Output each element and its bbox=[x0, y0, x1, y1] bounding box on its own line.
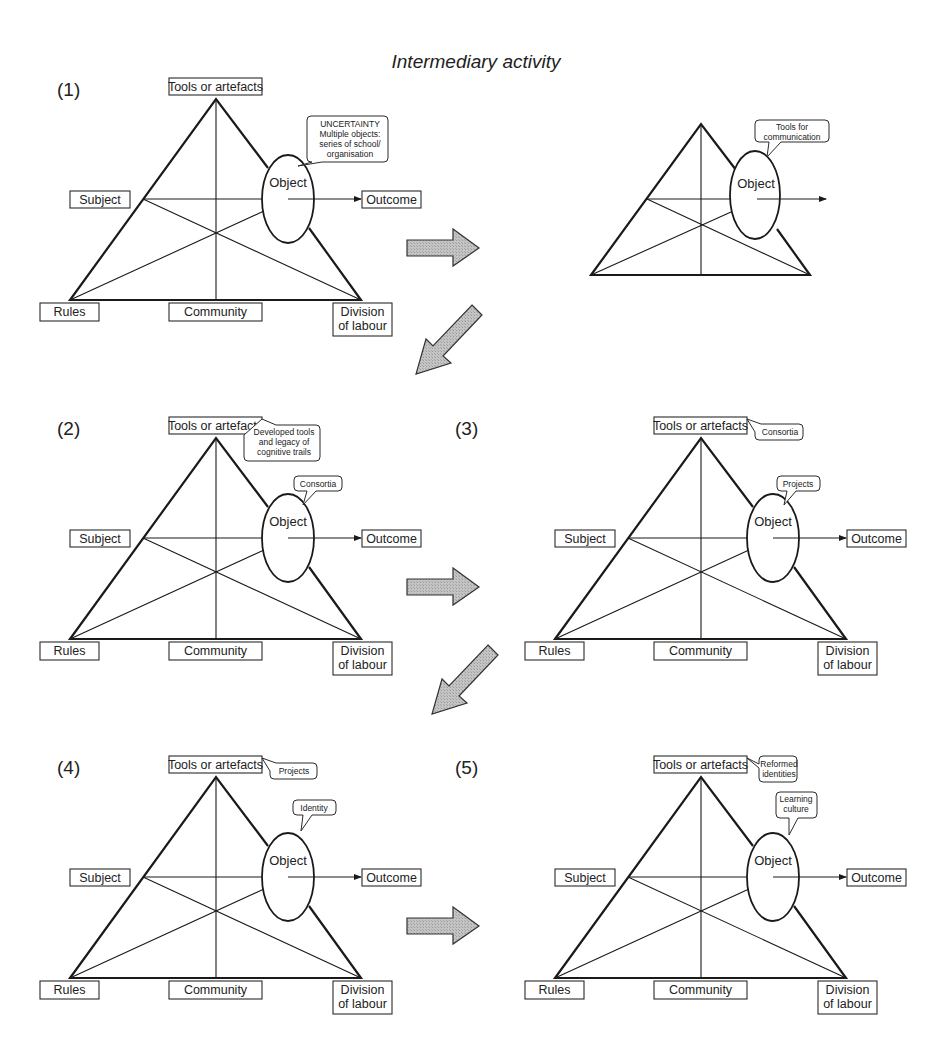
transition-arrow-down-left bbox=[432, 645, 498, 714]
bubble-line: Consortia bbox=[300, 479, 337, 489]
object-label: Object bbox=[754, 853, 792, 868]
object-ellipse bbox=[730, 151, 780, 239]
subject-division-line bbox=[647, 199, 810, 275]
community-label: Community bbox=[669, 983, 733, 997]
division-label-line1: Division bbox=[341, 305, 385, 319]
bubble-line: culture bbox=[783, 804, 809, 814]
subject-label: Subject bbox=[564, 871, 606, 885]
rules-label: Rules bbox=[54, 983, 86, 997]
bubble-line: Identity bbox=[300, 803, 328, 813]
panel-number: (2) bbox=[57, 418, 80, 439]
rules-object-line bbox=[555, 889, 749, 978]
division-label-line2: of labour bbox=[823, 658, 872, 672]
panel-number: (4) bbox=[57, 757, 80, 778]
subject-division-line bbox=[143, 538, 361, 639]
bubble-line: Multiple objects: bbox=[320, 129, 381, 139]
division-label-line2: of labour bbox=[338, 658, 387, 672]
bubble-line: Developed tools bbox=[254, 427, 315, 437]
outcome-label: Outcome bbox=[851, 871, 902, 885]
outcome-label: Outcome bbox=[366, 532, 417, 546]
bubble-line: UNCERTAINTY bbox=[320, 119, 380, 129]
rules-object-line bbox=[70, 550, 264, 639]
bubble-line: organisation bbox=[327, 149, 374, 159]
bubble-line: Tools for bbox=[776, 122, 808, 132]
outcome-label: Outcome bbox=[366, 871, 417, 885]
bubble-line: Projects bbox=[279, 766, 310, 776]
panel-number: (5) bbox=[455, 757, 478, 778]
rules-label: Rules bbox=[539, 644, 571, 658]
activity-system-diagram: Intermediary activity (1) Object Tools o… bbox=[0, 0, 952, 1053]
subject-division-line bbox=[628, 538, 846, 639]
community-label: Community bbox=[184, 305, 248, 319]
panel-5: (5) Object Tools or artefacts Subject Ou… bbox=[455, 756, 906, 1014]
panel-4: (4) Object Tools or artefacts Subject Ou… bbox=[40, 756, 421, 1014]
rules-label: Rules bbox=[539, 983, 571, 997]
tools-label: Tools or artefacts bbox=[168, 80, 263, 94]
panel-1: (1) Object Tools or artefacts Subject Ou… bbox=[40, 78, 421, 336]
outcome-label: Outcome bbox=[851, 532, 902, 546]
division-label-line2: of labour bbox=[338, 997, 387, 1011]
object-label: Object bbox=[269, 514, 307, 529]
subject-label: Subject bbox=[79, 193, 121, 207]
bubble-line: cognitive trails bbox=[257, 447, 311, 457]
bubble-line: Projects bbox=[783, 479, 814, 489]
transition-arrow-down-left bbox=[416, 305, 482, 374]
object-label: Object bbox=[737, 176, 775, 191]
panel-number: (1) bbox=[57, 79, 80, 100]
division-label-line1: Division bbox=[341, 644, 385, 658]
community-label: Community bbox=[184, 983, 248, 997]
diagram-title: Intermediary activity bbox=[392, 51, 562, 72]
panel-3: (3) Object Tools or artefacts Subject Ou… bbox=[455, 417, 906, 675]
rules-object-line bbox=[555, 550, 749, 639]
panel-number: (3) bbox=[455, 418, 478, 439]
subject-division-line bbox=[143, 199, 361, 300]
outcome-label: Outcome bbox=[366, 193, 417, 207]
bubble-line: Learning bbox=[779, 794, 812, 804]
subject-label: Subject bbox=[79, 871, 121, 885]
subject-division-line bbox=[628, 877, 846, 978]
object-label: Object bbox=[269, 175, 307, 190]
community-label: Community bbox=[669, 644, 733, 658]
bubble-line: Consortia bbox=[762, 427, 799, 437]
division-label-line2: of labour bbox=[823, 997, 872, 1011]
panel-intermediary: Object Tools for communication bbox=[591, 120, 829, 275]
tools-label: Tools or artefacts bbox=[653, 758, 748, 772]
division-label-line2: of labour bbox=[338, 319, 387, 333]
rules-label: Rules bbox=[54, 305, 86, 319]
subject-division-line bbox=[143, 877, 361, 978]
division-label-line1: Division bbox=[826, 644, 870, 658]
rules-object-line bbox=[70, 211, 264, 300]
bubble-line: series of school/ bbox=[319, 139, 381, 149]
rules-object-line bbox=[70, 889, 264, 978]
panel-2: (2) Object Tools or artefacts Subject Ou… bbox=[40, 417, 421, 675]
tools-label: Tools or artefacts bbox=[653, 419, 748, 433]
bubble-line: identities bbox=[762, 769, 796, 779]
tools-label: Tools or artefacts bbox=[168, 758, 263, 772]
subject-label: Subject bbox=[564, 532, 606, 546]
object-label: Object bbox=[754, 514, 792, 529]
rules-label: Rules bbox=[54, 644, 86, 658]
rules-object-line bbox=[591, 212, 731, 275]
object-label: Object bbox=[269, 853, 307, 868]
bubble-line: communication bbox=[763, 132, 820, 142]
transition-arrow-right bbox=[407, 907, 479, 944]
bubble-line: and legacy of bbox=[259, 437, 310, 447]
transition-arrow-right bbox=[407, 568, 479, 605]
transition-arrow-right bbox=[407, 229, 479, 266]
division-label-line1: Division bbox=[826, 983, 870, 997]
community-label: Community bbox=[184, 644, 248, 658]
bubble-line: Reformed bbox=[760, 759, 798, 769]
division-label-line1: Division bbox=[341, 983, 385, 997]
subject-label: Subject bbox=[79, 532, 121, 546]
